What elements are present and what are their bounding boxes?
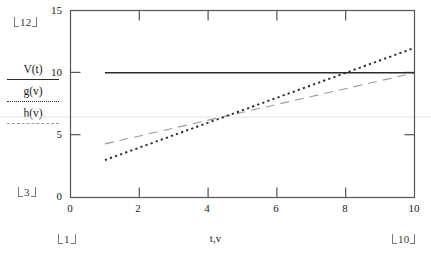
plot-canvas <box>0 0 431 256</box>
series-line-gv <box>105 48 415 160</box>
x-axis-ticks-top <box>139 11 345 21</box>
y-axis-ticks <box>71 72 81 134</box>
mathcad-plot-region[interactable]: 12 3 1 10 V(t) g(v) h(v) 15 10 5 0 0 2 4… <box>0 0 431 256</box>
plot-frame-border <box>71 11 415 198</box>
y-axis-ticks-right <box>405 72 415 134</box>
series-line-hv <box>105 73 415 144</box>
x-axis-ticks <box>139 188 345 198</box>
